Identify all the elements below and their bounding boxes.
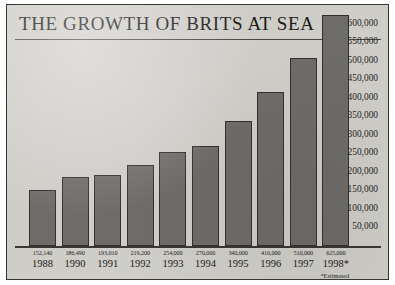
x-axis-label-1997: 1997 [285,258,322,269]
chart-figure: THE GROWTH OF BRITS AT SEA 152,140198818… [0,0,395,285]
y-tick-400000: 400,000 [348,92,378,102]
bar-1995 [225,121,252,246]
bar-1993 [159,152,186,246]
bar-1991 [94,175,121,246]
x-axis-label-1998: 1998* [317,258,354,269]
x-axis-label-1991: 1991 [89,258,126,269]
x-axis-label-1994: 1994 [187,258,224,269]
bar-1998 [322,15,349,246]
bar-value-label-1991: 193,010 [90,249,125,256]
y-tick-600000: 600,000 [348,18,378,28]
y-tick-500000: 500,000 [348,55,378,65]
y-tick-50000: 50,000 [352,221,378,231]
bar-value-label-1996: 416,000 [253,249,288,256]
bar-value-label-1990: 186,490 [58,249,93,256]
x-axis-label-1992: 1992 [122,258,159,269]
y-tick-300000: 300,000 [348,129,378,139]
x-axis-label-1996: 1996 [252,258,289,269]
y-tick-100000: 100,000 [348,203,378,213]
footnote-estimated: *Estimated [320,272,349,279]
y-tick-350000: 350,000 [348,110,378,120]
bar-value-label-1995: 340,000 [221,249,256,256]
bar-value-label-1998: 625,000 [318,249,353,256]
chart-title: THE GROWTH OF BRITS AT SEA [19,13,315,35]
bar-1996 [257,92,284,246]
x-axis-label-1993: 1993 [154,258,191,269]
bar-1988 [29,190,56,246]
y-tick-450000: 450,000 [348,73,378,83]
bar-1992 [127,165,154,246]
bar-1994 [192,146,219,246]
y-tick-250000: 250,000 [348,147,378,157]
y-tick-550000: 550,000 [348,36,378,46]
x-axis-baseline [15,246,381,248]
x-axis-label-1990: 1990 [57,258,94,269]
x-axis-label-1995: 1995 [220,258,257,269]
bar-value-label-1993: 254,000 [155,249,190,256]
bar-value-label-1994: 270,000 [188,249,223,256]
x-axis-label-1988: 1988 [24,258,61,269]
y-tick-150000: 150,000 [348,184,378,194]
bar-1990 [62,177,89,246]
chart-panel: THE GROWTH OF BRITS AT SEA 152,140198818… [6,4,389,280]
bar-1997 [290,58,317,246]
bar-value-label-1992: 219,200 [123,249,158,256]
bar-value-label-1997: 510,000 [286,249,321,256]
y-tick-200000: 200,000 [348,166,378,176]
bar-value-label-1988: 152,140 [25,249,60,256]
